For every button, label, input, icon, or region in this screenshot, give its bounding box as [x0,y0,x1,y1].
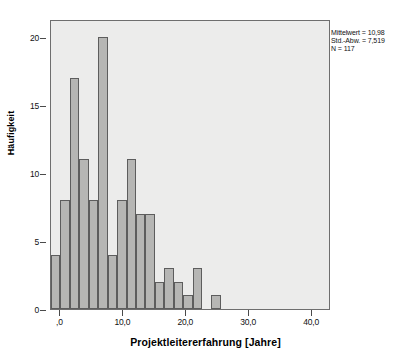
histogram-bar [60,200,69,309]
x-tick-mark [185,310,186,316]
histogram-bar [164,268,173,309]
x-tick-label: 30,0 [240,317,256,327]
mean-label: Mittelwert = 10,98 [331,29,385,37]
histogram-bar [183,295,192,309]
histogram-bar [145,214,154,309]
x-tick-mark [122,310,123,316]
histogram-bar [89,200,98,309]
y-axis-title: Häufigkeit [6,78,16,188]
x-tick-label: 10,0 [114,317,130,327]
statistics-annotation: Mittelwert = 10,98 Std.-Abw. = 7,519 N =… [331,29,385,54]
x-tick-label: ,0 [56,317,63,327]
plot-area [50,20,330,310]
histogram-bar [136,214,145,309]
histogram-figure: Häufigkeit 05101520 Projektleitererfahru… [0,0,411,364]
histogram-bar [174,282,183,309]
y-tick-mark [40,106,46,107]
y-tick-mark [40,174,46,175]
x-tick-mark [248,310,249,316]
histogram-bar [108,255,117,309]
x-tick-label: 40,0 [303,317,319,327]
histogram-bar [193,268,202,309]
x-axis-title: Projektleitererfahrung [Jahre] [0,336,411,348]
x-tick-mark [311,310,312,316]
histogram-bar [51,255,60,309]
n-label: N = 117 [331,45,385,53]
histogram-bar [127,159,136,309]
y-tick-label: 5 [34,238,39,246]
histogram-bar [70,78,79,309]
histogram-bar [117,200,126,309]
y-tick-label: 10 [30,170,39,178]
stddev-label: Std.-Abw. = 7,519 [331,37,385,45]
bars-layer [51,21,329,309]
y-tick-mark [40,242,46,243]
y-tick-label: 15 [30,102,39,110]
x-tick-label: 20,0 [177,317,193,327]
histogram-bar [211,295,220,309]
y-tick-label: 20 [30,34,39,42]
x-tick-mark [59,310,60,316]
x-axis: Projektleitererfahrung [Jahre] ,010,020,… [0,310,411,364]
histogram-bar [155,282,164,309]
histogram-bar [79,159,88,309]
y-tick-mark [40,38,46,39]
histogram-bar [98,37,107,309]
